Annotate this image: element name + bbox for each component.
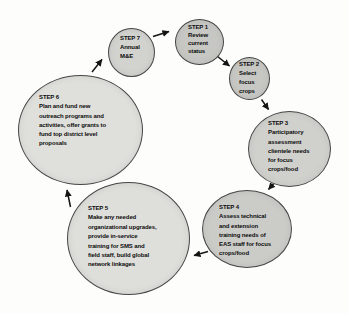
step-7-text-block: STEP 7 Annual M&E <box>120 34 140 61</box>
step-4-description: Assess technical and extension training … <box>219 212 271 258</box>
step-2-circle: STEP 2 Select focus crops <box>229 57 270 100</box>
arrow-step1-to-step2 <box>217 56 230 66</box>
step-6-circle: STEP 6 Plan and fund new outreach progra… <box>18 75 143 185</box>
step-4-circle: STEP 4 Assess technical and extension tr… <box>202 190 292 268</box>
process-cycle-diagram: STEP 1 Review current status STEP 2 Sele… <box>0 0 349 314</box>
step-5-text-block: STEP 5 Make any needed organizational up… <box>88 204 157 270</box>
step-6-text-block: STEP 6 Plan and fund new outreach progra… <box>39 93 106 149</box>
arrow-step6-to-step7 <box>92 60 102 73</box>
step-7-circle: STEP 7 Annual M&E <box>108 28 155 77</box>
arrow-step4-to-step5 <box>194 252 208 256</box>
step-5-description: Make any needed organizational upgrades,… <box>88 213 157 269</box>
step-3-label: STEP 3 <box>268 119 310 128</box>
arrow-step5-to-step6 <box>67 190 71 207</box>
step-1-description: Review current status <box>188 31 208 55</box>
step-6-label: STEP 6 <box>39 93 106 102</box>
step-3-circle: STEP 3 Participatory assessment clientel… <box>248 111 331 187</box>
step-5-circle: STEP 5 Make any needed organizational up… <box>67 182 190 295</box>
step-2-text-block: STEP 2 Select focus crops <box>239 60 259 96</box>
step-7-description: Annual M&E <box>120 43 140 61</box>
arrow-step2-to-step3 <box>262 100 269 110</box>
step-7-label: STEP 7 <box>120 34 140 43</box>
step-2-label: STEP 2 <box>239 60 259 69</box>
step-1-circle: STEP 1 Review current status <box>175 19 224 65</box>
step-4-text-block: STEP 4 Assess technical and extension tr… <box>219 203 271 259</box>
arrow-step7-to-step1 <box>153 32 169 37</box>
step-3-description: Participatory assessment clientele needs… <box>268 128 310 174</box>
step-6-description: Plan and fund new outreach programs and … <box>39 102 106 148</box>
step-2-description: Select focus crops <box>239 69 259 96</box>
step-1-text-block: STEP 1 Review current status <box>188 23 208 55</box>
step-5-label: STEP 5 <box>88 204 157 213</box>
step-4-label: STEP 4 <box>219 203 271 212</box>
step-3-text-block: STEP 3 Participatory assessment clientel… <box>268 119 310 175</box>
step-1-label: STEP 1 <box>188 23 208 31</box>
